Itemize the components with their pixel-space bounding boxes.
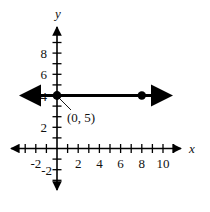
y-tick-label-2: 2 (41, 120, 48, 135)
x-tick-label-6: 6 (117, 156, 124, 171)
y-tick-label-8: 8 (41, 46, 48, 61)
y-axis-label: y (53, 6, 61, 21)
x-tick-label-2: 2 (75, 156, 82, 171)
point-annotation: (0, 5) (59, 98, 96, 126)
x-tick-label-neg2: -2 (30, 156, 41, 171)
y-tick-label-6: 6 (41, 67, 48, 82)
x-tick-label-4: 4 (96, 156, 103, 171)
x-tick-label-8: 8 (139, 156, 146, 171)
data-point-8-5 (138, 91, 146, 99)
x-axis-label: x (188, 141, 195, 156)
y-tick-label-neg2: -2 (41, 163, 52, 178)
coordinate-plane-svg: -2 2 4 6 8 10 x (0, 0, 210, 212)
x-tick-label-10: 10 (157, 156, 170, 171)
annotation-leader-line (59, 98, 72, 111)
x-axis: -2 2 4 6 8 10 x (11, 141, 195, 171)
graph-figure: -2 2 4 6 8 10 x (0, 0, 210, 212)
annotation-label-0-5: (0, 5) (67, 110, 95, 125)
